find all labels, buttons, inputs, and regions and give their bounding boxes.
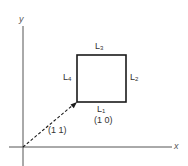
side-label-l2: L2 [130,73,138,82]
y-axis-label: y [19,15,24,24]
side-label-l3: L3 [95,42,103,51]
square-vector-diagram: y x L3 L2 L4 L1 (1 0) (1 1) [0,0,188,166]
arrowhead-icon [71,102,78,108]
corner-coordinate-label: (1 0) [94,116,113,125]
x-axis-label: x [174,142,179,151]
side-label-l4: L4 [63,73,71,82]
diagram-canvas [0,0,188,166]
vector-coordinate-label: (1 1) [48,126,67,135]
square [77,55,126,102]
side-label-l1: L1 [97,105,105,114]
